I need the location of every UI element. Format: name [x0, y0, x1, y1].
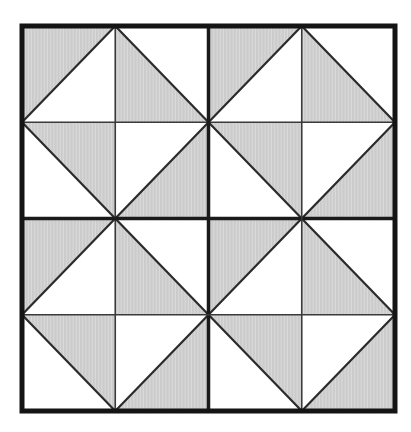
quilt-pattern-figure: [0, 0, 411, 432]
pattern-svg: [0, 0, 411, 432]
